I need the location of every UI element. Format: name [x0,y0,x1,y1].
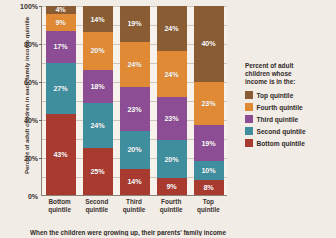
bar-group: 4%9%17%27%43%14%20%18%24%25%19%24%23%20%… [42,6,227,195]
legend-swatch-icon [245,91,253,99]
segment-value-label: 23% [127,105,141,114]
bar-segment-top-quintile[interactable]: 40% [194,6,224,82]
segment-value-label: 20% [90,46,104,55]
x-axis-label-fourth: Fourthquintile [153,198,190,215]
x-axis-label-line-2: quintile [153,206,190,214]
bar-segment-bottom-quintile[interactable]: 25% [83,148,113,195]
legend-items: Top quintileFourth quintileThird quintil… [245,89,336,149]
bar-segment-bottom-quintile[interactable]: 14% [120,169,150,195]
legend-item-third-quintile[interactable]: Third quintile [245,113,336,125]
legend-item-label: Bottom quintile [257,140,305,147]
legend-swatch-icon [245,139,253,147]
bar-segment-top-quintile[interactable]: 19% [120,6,150,42]
bar-top-quintile[interactable]: 40%23%19%10%8% [194,6,224,195]
segment-value-label: 40% [201,39,215,48]
bar-segment-third-quintile[interactable]: 23% [157,97,187,140]
bar-segment-fourth-quintile[interactable]: 9% [46,14,76,31]
x-axis-label-line-1: Second [78,198,115,206]
bar-segment-top-quintile[interactable]: 4% [46,6,76,14]
legend-item-label: Fourth quintile [257,104,303,111]
bar-bottom-quintile[interactable]: 4%9%17%27%43% [46,6,76,195]
segment-value-label: 43% [53,150,67,159]
legend: Percent of adult children whose income i… [245,62,336,149]
x-axis-label-line-1: Bottom [41,198,78,206]
legend-item-second-quintile[interactable]: Second quintile [245,125,336,137]
legend-item-bottom-quintile[interactable]: Bottom quintile [245,137,336,149]
segment-value-label: 19% [127,19,141,28]
x-axis-label-line-1: Fourth [153,198,190,206]
bar-segment-bottom-quintile[interactable]: 43% [46,114,76,195]
bar-segment-fourth-quintile[interactable]: 20% [83,32,113,69]
x-axis-category-labels: BottomquintileSecondquintileThirdquintil… [41,198,227,215]
segment-value-label: 20% [127,145,141,154]
segment-value-label: 14% [127,177,141,186]
bar-segment-third-quintile[interactable]: 17% [46,31,76,63]
legend-swatch-icon [245,103,253,111]
y-axis-tick-0: 0% [28,193,38,200]
segment-value-label: 9% [166,182,176,191]
bar-segment-bottom-quintile[interactable]: 8% [194,180,224,195]
y-axis-tick-20: 20% [24,155,38,162]
bar-fourth-quintile[interactable]: 24%24%23%20%9% [157,6,187,195]
bar-segment-third-quintile[interactable]: 18% [83,70,113,104]
x-axis-title: When the children were growing up, their… [30,229,330,236]
bar-segment-second-quintile[interactable]: 24% [83,103,113,148]
bar-segment-third-quintile[interactable]: 19% [194,125,224,161]
segment-value-label: 24% [90,121,104,130]
legend-item-label: Top quintile [257,92,294,99]
segment-value-label: 23% [201,99,215,108]
y-axis-tick-labels: 100%80%60%40%20%0% [8,0,40,196]
bar-segment-fourth-quintile[interactable]: 23% [194,82,224,125]
segment-value-label: 24% [164,24,178,33]
bar-third-quintile[interactable]: 19%24%23%20%14% [120,6,150,195]
segment-value-label: 25% [90,167,104,176]
segment-value-label: 24% [164,70,178,79]
segment-value-label: 17% [53,42,67,51]
bar-segment-fourth-quintile[interactable]: 24% [157,51,187,96]
x-axis-label-bottom: Bottomquintile [41,198,78,215]
segment-value-label: 4% [55,6,65,14]
bar-segment-second-quintile[interactable]: 20% [120,131,150,169]
x-axis-label-line-2: quintile [41,206,78,214]
segment-value-label: 23% [164,114,178,123]
segment-value-label: 8% [203,183,213,192]
legend-title-line-3: income is in the: [245,78,336,86]
bar-segment-second-quintile[interactable]: 10% [194,161,224,180]
x-axis-label-line-1: Top [190,198,227,206]
y-axis-tick-60: 60% [24,79,38,86]
bar-second-quintile[interactable]: 14%20%18%24%25% [83,6,113,195]
segment-value-label: 24% [127,60,141,69]
segment-value-label: 19% [201,139,215,148]
legend-swatch-icon [245,115,253,123]
x-axis-label-top: Topquintile [190,198,227,215]
x-axis-label-line-2: quintile [190,206,227,214]
segment-value-label: 9% [55,18,65,27]
x-axis-label-second: Secondquintile [78,198,115,215]
bar-segment-top-quintile[interactable]: 24% [157,6,187,51]
x-axis-label-third: Thirdquintile [115,198,152,215]
bar-segment-second-quintile[interactable]: 27% [46,63,76,114]
legend-item-label: Second quintile [257,128,306,135]
legend-title-line-1: Percent of adult [245,62,336,70]
legend-item-top-quintile[interactable]: Top quintile [245,89,336,101]
y-axis-tick-80: 80% [24,41,38,48]
segment-value-label: 18% [90,82,104,91]
legend-title-line-2: children whose [245,70,336,78]
bar-segment-second-quintile[interactable]: 20% [157,140,187,178]
segment-value-label: 10% [201,166,215,175]
y-axis-tick-40: 40% [24,117,38,124]
bar-segment-top-quintile[interactable]: 14% [83,6,113,32]
x-axis-label-line-2: quintile [115,206,152,214]
bar-segment-bottom-quintile[interactable]: 9% [157,178,187,195]
plot-area: 4%9%17%27%43%14%20%18%24%25%19%24%23%20%… [41,6,227,196]
bar-segment-third-quintile[interactable]: 23% [120,87,150,130]
bar-segment-fourth-quintile[interactable]: 24% [120,42,150,87]
segment-value-label: 14% [90,15,104,24]
y-axis-tick-100: 100% [20,3,38,10]
legend-item-fourth-quintile[interactable]: Fourth quintile [245,101,336,113]
segment-value-label: 27% [53,84,67,93]
legend-item-label: Third quintile [257,116,299,123]
legend-swatch-icon [245,127,253,135]
x-axis-label-line-1: Third [115,198,152,206]
x-axis-label-line-2: quintile [78,206,115,214]
